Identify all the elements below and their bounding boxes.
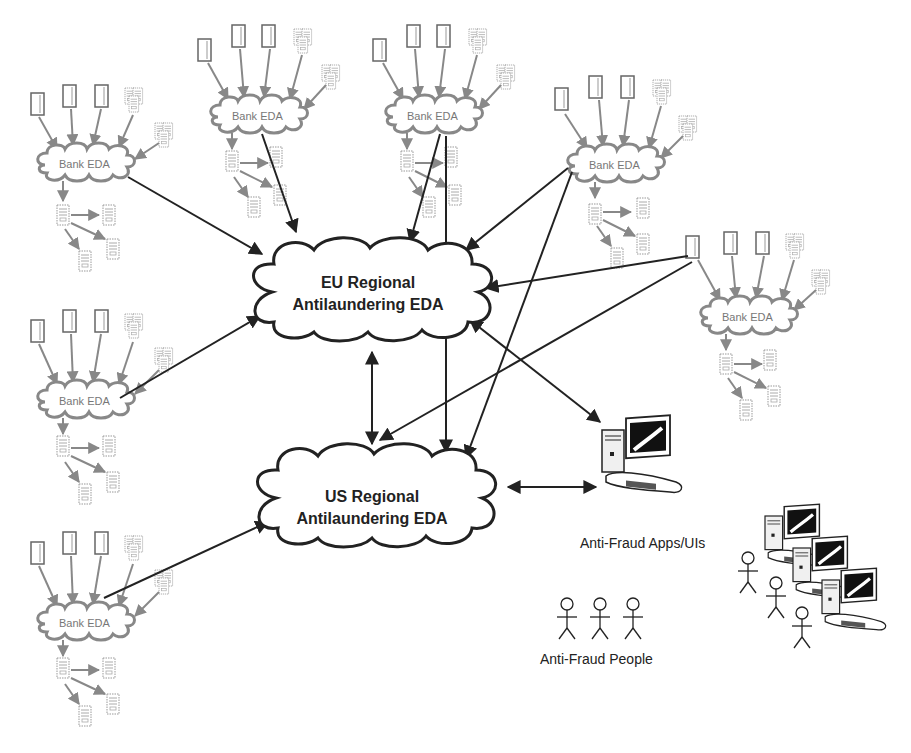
bank-label: Bank EDA bbox=[59, 158, 110, 170]
people-group bbox=[557, 598, 643, 639]
bank-label: Bank EDA bbox=[232, 110, 283, 122]
diagram-canvas: Bank EDA Bank EDA Bank EDA bbox=[0, 0, 911, 753]
stick-figure-icon bbox=[792, 607, 812, 648]
bank-label: Bank EDA bbox=[407, 110, 458, 122]
bank-label: Bank EDA bbox=[722, 311, 773, 323]
bank-group-left-2: Bank EDA bbox=[31, 310, 173, 504]
bank-group-top-1: Bank EDA bbox=[198, 25, 340, 217]
computer-workstation-icon bbox=[602, 415, 682, 492]
apps-caption: Anti-Fraud Apps/UIs bbox=[580, 535, 705, 551]
eu-hub-line1: EU Regional bbox=[321, 274, 415, 291]
bank-group-left-1: Bank EDA bbox=[31, 85, 173, 271]
stick-figure-icon bbox=[766, 577, 786, 618]
us-hub-line2: Antilaundering EDA bbox=[296, 510, 448, 527]
workstation-cluster bbox=[738, 504, 886, 648]
stick-figure-icon bbox=[557, 598, 577, 639]
eu-regional-hub: EU Regional Antilaundering EDA bbox=[253, 238, 491, 341]
bank-label: Bank EDA bbox=[59, 395, 110, 407]
eu-hub-line2: Antilaundering EDA bbox=[292, 296, 444, 313]
stick-figure-icon bbox=[738, 552, 758, 593]
people-caption: Anti-Fraud People bbox=[540, 651, 653, 667]
bank-label: Bank EDA bbox=[589, 159, 640, 171]
bank-group-left-3: Bank EDA bbox=[31, 532, 173, 726]
bank-label: Bank EDA bbox=[59, 617, 110, 629]
computer-workstation-icon bbox=[822, 568, 886, 630]
bank-group-right-2: Bank EDA bbox=[686, 232, 830, 420]
us-regional-hub: US Regional Antilaundering EDA bbox=[257, 444, 495, 547]
bank-group-top-2: Bank EDA bbox=[373, 25, 515, 217]
bank-group-right-1: Bank EDA bbox=[555, 76, 697, 268]
stick-figure-icon bbox=[590, 598, 610, 639]
us-hub-line1: US Regional bbox=[325, 488, 419, 505]
stick-figure-icon bbox=[623, 598, 643, 639]
